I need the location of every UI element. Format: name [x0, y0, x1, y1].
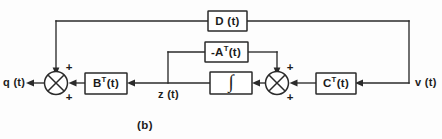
right-sum-sign-top: + — [287, 61, 294, 73]
block-a-letter: A — [215, 46, 224, 58]
figure-caption: (b) — [137, 119, 153, 131]
block-integrator[interactable]: ∫ — [210, 71, 252, 94]
arrowhead-into-right-sum — [290, 80, 298, 87]
block-b-transpose[interactable]: BT(t) — [85, 73, 127, 94]
left-sum-sign-top: + — [66, 61, 73, 73]
block-d-label: D (t) — [215, 15, 240, 27]
right-sum-sign-bottom: + — [287, 91, 294, 103]
block-c-arg: (t) — [337, 77, 349, 89]
block-c-letter: C — [323, 77, 332, 89]
block-diagram: D (t) -AT(t) ∫ BT(t) CT(t) — [0, 0, 442, 139]
arrowhead-into-b-block — [127, 80, 135, 87]
block-c-transpose[interactable]: CT(t) — [316, 73, 356, 94]
block-c-transpose-label: CT(t) — [323, 75, 349, 89]
block-b-letter: B — [93, 77, 102, 89]
block-a-transpose[interactable]: -AT(t) — [205, 42, 248, 62]
left-sum-sign-bottom: + — [66, 91, 73, 103]
arrowhead-into-integrator — [252, 80, 260, 87]
block-a-arg: (t) — [229, 46, 241, 58]
block-b-transpose-label: BT(t) — [93, 75, 119, 89]
state-signal-label-z: z (t) — [158, 88, 179, 100]
arrowhead-output-q — [26, 80, 34, 87]
arrowhead-into-left-sum — [69, 80, 77, 87]
summing-junction-right[interactable]: + + — [266, 61, 294, 103]
input-signal-label-v: v (t) — [415, 76, 437, 88]
output-signal-label-q: q (t) — [3, 76, 25, 88]
figure-container: D (t) -AT(t) ∫ BT(t) CT(t) — [0, 0, 442, 139]
block-d[interactable]: D (t) — [208, 11, 247, 31]
summing-junction-left[interactable]: + + — [45, 61, 73, 103]
block-b-arg: (t) — [107, 77, 119, 89]
